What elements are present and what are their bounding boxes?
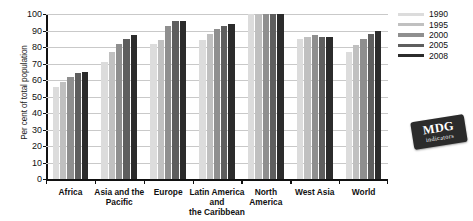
legend-label: 2000 [429, 30, 448, 40]
x-tick-label-line: America [237, 197, 294, 207]
legend-item[interactable]: 2008 [398, 51, 473, 61]
legend-item[interactable]: 1990 [398, 9, 473, 19]
y-tick-label: 60 [32, 75, 42, 85]
y-tick-label: 30 [32, 125, 42, 135]
x-tick-label-line: Pacific [91, 197, 148, 207]
bar [360, 39, 366, 179]
y-tick-label: 0 [37, 174, 42, 184]
x-tick-mark [193, 179, 194, 184]
x-tick-mark [144, 179, 145, 184]
y-tick-label: 20 [32, 141, 42, 151]
x-tick-label: World [335, 187, 392, 197]
bar [368, 34, 374, 179]
legend-label: 1995 [429, 20, 448, 30]
mdg-indicators-badge: MDG indicators [410, 114, 468, 150]
y-tick-label: 70 [32, 59, 42, 69]
legend-item[interactable]: 1995 [398, 19, 473, 29]
legend-swatch [398, 13, 424, 16]
y-tick-label: 50 [32, 92, 42, 102]
y-tick-label: 40 [32, 108, 42, 118]
x-tick-mark [241, 179, 242, 184]
plot-area: 0102030405060708090100 AfricaAsia and th… [46, 14, 388, 179]
bar [375, 31, 381, 180]
x-tick-mark [387, 179, 388, 184]
bar [346, 52, 352, 179]
legend-item[interactable]: 2000 [398, 30, 473, 40]
legend-label: 2005 [429, 40, 448, 50]
legend: 19901995200020052008 [398, 9, 473, 61]
legend-swatch [398, 33, 424, 36]
y-tick-label: 90 [32, 26, 42, 36]
legend-swatch [398, 54, 424, 57]
y-axis-title: Per cent of total population [20, 13, 29, 173]
bar-group [46, 14, 388, 179]
legend-swatch [398, 44, 424, 47]
chart-figure: Per cent of total population 01020304050… [0, 0, 473, 221]
x-tick-mark [95, 179, 96, 184]
y-tick-label: 100 [27, 9, 42, 19]
x-tick-mark [339, 179, 340, 184]
x-axis-line [46, 179, 388, 181]
x-tick-mark [46, 179, 47, 184]
x-tick-label-line: the Caribbean [189, 207, 246, 217]
x-tick-mark [290, 179, 291, 184]
y-tick-label: 80 [32, 42, 42, 52]
legend-item[interactable]: 2005 [398, 40, 473, 50]
y-tick-label: 10 [32, 158, 42, 168]
legend-label: 1990 [429, 9, 448, 19]
x-tick-label-line: World [335, 187, 392, 197]
legend-label: 2008 [429, 51, 448, 61]
bar [353, 45, 359, 179]
legend-swatch [398, 23, 424, 26]
